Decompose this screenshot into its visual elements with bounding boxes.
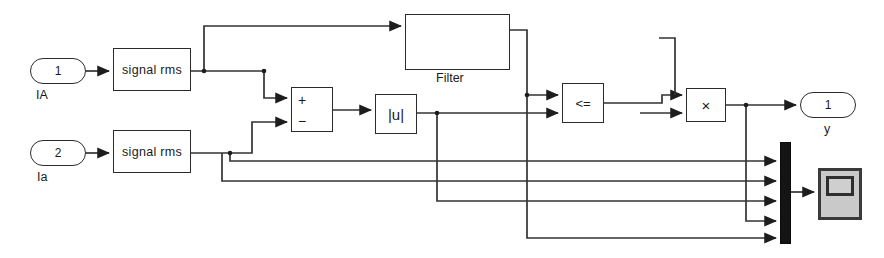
filter-block-caption: Filter — [436, 71, 464, 85]
outport-y-label: y — [824, 122, 830, 136]
filter-block[interactable] — [405, 14, 510, 70]
sum-block-plus-sign: + — [298, 93, 306, 107]
product-block-label: × — [702, 98, 711, 113]
wire-abs-mux — [437, 113, 776, 201]
wire-rms-lower-sum — [191, 122, 287, 153]
inport-ia-lower-number: 2 — [55, 147, 62, 159]
product-block[interactable]: × — [686, 88, 726, 122]
abs-block-label: |u| — [388, 107, 404, 122]
signal-rms-upper[interactable]: signal rms — [113, 48, 191, 91]
block-diagram-canvas[interactable]: 1 IA 2 Ia signal rms signal rms + − |u| … — [0, 0, 884, 258]
inport-ia-upper-number: 1 — [55, 65, 62, 77]
wire-branch-mux2 — [222, 153, 776, 181]
relational-operator-label: <= — [575, 97, 590, 110]
wire-junction-dots — [202, 69, 749, 156]
wire-rms-upper-filter — [191, 26, 401, 71]
wire-rms-lower-mux — [230, 153, 776, 161]
wire-loop-product — [659, 38, 675, 95]
relational-operator-block[interactable]: <= — [562, 83, 604, 123]
inport-ia-lower[interactable]: 2 — [30, 140, 86, 166]
scope-screen — [826, 176, 854, 196]
signal-rms-lower[interactable]: signal rms — [113, 130, 191, 173]
inport-ia-upper[interactable]: 1 — [30, 58, 86, 84]
sum-block[interactable]: + − — [291, 87, 333, 132]
mux-block[interactable] — [780, 142, 791, 244]
abs-block[interactable]: |u| — [375, 94, 417, 134]
inport-ia-lower-label: Ia — [37, 170, 47, 184]
wire-product-mux — [746, 105, 776, 221]
scope-block[interactable] — [818, 168, 862, 220]
outport-y-number: 1 — [825, 99, 832, 111]
wire-filter-relational — [510, 30, 558, 95]
signal-rms-lower-label: signal rms — [122, 145, 182, 159]
inport-ia-upper-label: IA — [36, 88, 48, 102]
signal-rms-upper-label: signal rms — [122, 63, 182, 77]
sum-block-minus-sign: − — [298, 114, 306, 128]
outport-y[interactable]: 1 — [800, 92, 856, 118]
wire-rms-upper-sum — [204, 71, 287, 98]
wire-relational-product — [604, 95, 682, 103]
